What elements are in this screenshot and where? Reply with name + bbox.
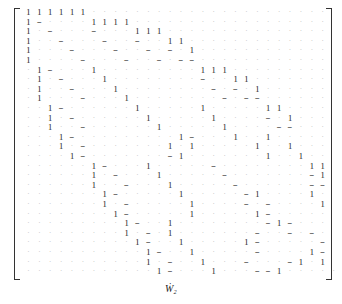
matrix-cell: · — [197, 27, 208, 37]
matrix-cell: 1 — [252, 190, 263, 200]
matrix-cell: · — [274, 18, 285, 28]
matrix-cell: · — [296, 162, 307, 172]
matrix-cell: · — [143, 66, 154, 76]
matrix-cell: · — [165, 8, 176, 18]
matrix-cell: · — [241, 162, 252, 172]
matrix-cell: · — [88, 210, 99, 220]
matrix-cell: · — [132, 85, 143, 95]
matrix-cell: · — [317, 123, 328, 133]
matrix-cell: · — [230, 162, 241, 172]
matrix-cell: · — [45, 85, 56, 95]
matrix-cell: · — [132, 200, 143, 210]
matrix-cell: · — [143, 200, 154, 210]
matrix-cell: · — [165, 104, 176, 114]
matrix-cell: · — [34, 267, 45, 277]
matrix-cell: · — [88, 200, 99, 210]
matrix-cell: · — [197, 190, 208, 200]
matrix-cell: · — [143, 181, 154, 191]
matrix-cell: − — [121, 56, 132, 66]
matrix-cell: · — [285, 190, 296, 200]
matrix-cell: 1 — [56, 8, 67, 18]
matrix-cell: · — [197, 181, 208, 191]
matrix-cell: 1 — [67, 8, 78, 18]
matrix-cell: · — [88, 37, 99, 47]
matrix-cell: · — [274, 142, 285, 152]
matrix-cell: − — [208, 162, 219, 172]
matrix-cell: · — [34, 190, 45, 200]
matrix-cell: · — [88, 190, 99, 200]
matrix-cell: · — [230, 219, 241, 229]
matrix-cell: · — [241, 8, 252, 18]
matrix-cell: · — [219, 133, 230, 143]
matrix-cell: · — [230, 200, 241, 210]
matrix-cell: · — [274, 8, 285, 18]
matrix-cell: · — [208, 171, 219, 181]
matrix-cell: · — [110, 123, 121, 133]
matrix-cell: · — [274, 152, 285, 162]
matrix-cell: · — [154, 142, 165, 152]
matrix-cell: · — [187, 152, 198, 162]
matrix-cell: · — [78, 248, 89, 258]
matrix-cell: · — [241, 219, 252, 229]
matrix-cell: 1 — [110, 210, 121, 220]
matrix-cell: · — [296, 56, 307, 66]
matrix-cell: · — [176, 85, 187, 95]
matrix-cell: · — [296, 75, 307, 85]
matrix-cell: · — [78, 258, 89, 268]
matrix-cell: · — [121, 27, 132, 37]
matrix-cell: · — [88, 258, 99, 268]
matrix-cell: · — [143, 133, 154, 143]
matrix-cell: · — [317, 46, 328, 56]
matrix-cell: · — [165, 66, 176, 76]
matrix-cell: · — [296, 123, 307, 133]
matrix-cell: · — [154, 190, 165, 200]
matrix-cell: · — [23, 258, 34, 268]
matrix-cell: · — [208, 133, 219, 143]
matrix-cell: · — [56, 56, 67, 66]
matrix-cell: · — [121, 162, 132, 172]
matrix-cell: · — [274, 162, 285, 172]
matrix-cell: · — [78, 27, 89, 37]
matrix-cell: · — [285, 8, 296, 18]
matrix-cell: · — [34, 229, 45, 239]
matrix-cell: · — [45, 190, 56, 200]
matrix-cell: · — [208, 219, 219, 229]
matrix-cell: · — [219, 104, 230, 114]
matrix-cell: · — [67, 27, 78, 37]
matrix-cell: · — [23, 219, 34, 229]
matrix-cell: · — [34, 219, 45, 229]
matrix-cell: − — [67, 85, 78, 95]
matrix-cell: · — [88, 85, 99, 95]
matrix-cell: · — [197, 37, 208, 47]
matrix-cell: · — [132, 152, 143, 162]
matrix-cell: · — [121, 104, 132, 114]
matrix-cell: · — [176, 162, 187, 172]
matrix-cell: · — [263, 85, 274, 95]
matrix-cell: · — [208, 8, 219, 18]
matrix-cell: − — [143, 46, 154, 56]
matrix-cell: · — [88, 123, 99, 133]
matrix-cell: 1 — [197, 258, 208, 268]
matrix-w2: 111111······················1−····1111··… — [14, 8, 330, 278]
matrix-cell: · — [208, 190, 219, 200]
matrix-cell: · — [252, 162, 263, 172]
matrix-cell: · — [306, 56, 317, 66]
matrix-cell: · — [132, 56, 143, 66]
matrix-cell: · — [296, 238, 307, 248]
matrix-cell: · — [23, 200, 34, 210]
matrix-cell: · — [306, 267, 317, 277]
matrix-cell: · — [176, 171, 187, 181]
matrix-cell: · — [88, 75, 99, 85]
matrix-cell: · — [274, 56, 285, 66]
matrix-cell: · — [67, 66, 78, 76]
matrix-cell: · — [132, 142, 143, 152]
matrix-cell: · — [306, 8, 317, 18]
matrix-cell: 1 — [306, 248, 317, 258]
matrix-cell: 1 — [296, 152, 307, 162]
matrix-cell: 1 — [121, 18, 132, 28]
matrix-cell: · — [306, 94, 317, 104]
matrix-cell: · — [208, 94, 219, 104]
matrix-cell: · — [176, 94, 187, 104]
matrix-cell: 1 — [187, 248, 198, 258]
matrix-cell: − — [67, 46, 78, 56]
